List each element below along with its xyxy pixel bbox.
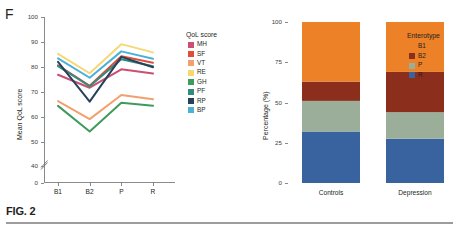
figure-container: F 0405060708090100 B1B2PR Mean QoL score… bbox=[0, 0, 459, 229]
legend-swatch-P bbox=[409, 63, 415, 69]
x-tick-label: Controls bbox=[301, 190, 361, 197]
figure-caption: FIG. 2 bbox=[6, 205, 35, 217]
legend-label-P: P bbox=[418, 62, 422, 68]
legend-swatch-SF bbox=[188, 51, 194, 57]
line-series-RE bbox=[58, 44, 153, 73]
legend-swatch-RP bbox=[188, 98, 194, 104]
legend-label-MH: MH bbox=[197, 41, 207, 47]
legend-item-B2[interactable]: B2 bbox=[409, 53, 426, 60]
legend-item-MH[interactable]: MH bbox=[188, 41, 207, 48]
caption-divider bbox=[6, 222, 453, 224]
legend-item-R[interactable]: R bbox=[409, 72, 423, 79]
legend-swatch-B1 bbox=[409, 44, 415, 50]
legend-item-PF[interactable]: PF bbox=[188, 88, 205, 95]
x-tick-label: B2 bbox=[75, 189, 105, 196]
bar-segment-controls-B2 bbox=[302, 82, 360, 101]
legend-item-RP[interactable]: RP bbox=[188, 97, 206, 104]
legend-swatch-RE bbox=[188, 70, 194, 76]
y-tick-label: 75 bbox=[258, 59, 282, 65]
y-tick bbox=[41, 183, 44, 184]
legend-swatch-B2 bbox=[409, 53, 415, 59]
x-tick-label: R bbox=[138, 189, 168, 196]
y-tick-label: 80 bbox=[12, 64, 38, 70]
panel-g-legend-title: Enterotype bbox=[407, 32, 440, 39]
panel-f-legend-title: QoL score bbox=[186, 31, 217, 38]
bar-segment-controls-B1 bbox=[302, 22, 360, 82]
x-tick bbox=[153, 183, 154, 186]
legend-label-RP: RP bbox=[197, 98, 206, 104]
legend-label-B2: B2 bbox=[418, 53, 426, 59]
panel-g-y-axis-title: Percentage (%) bbox=[262, 91, 269, 140]
legend-item-BP[interactable]: BP bbox=[188, 107, 206, 114]
legend-label-BP: BP bbox=[197, 107, 206, 113]
x-tick-label: B1 bbox=[43, 189, 73, 196]
y-tick-label: 0 bbox=[258, 180, 282, 186]
bar-segment-controls-P bbox=[302, 101, 360, 132]
y-tick-label: 100 bbox=[258, 19, 282, 25]
line-series-VT bbox=[58, 95, 153, 119]
bar-segment-depression-R bbox=[386, 139, 444, 183]
legend-swatch-VT bbox=[188, 60, 194, 66]
legend-swatch-R bbox=[409, 72, 415, 78]
legend-label-R: R bbox=[418, 72, 423, 78]
y-tick-label: 0 bbox=[12, 180, 38, 186]
legend-swatch-PF bbox=[188, 89, 194, 95]
legend-label-PF: PF bbox=[197, 88, 205, 94]
legend-item-SF[interactable]: SF bbox=[188, 50, 205, 57]
legend-swatch-MH bbox=[188, 42, 194, 48]
legend-label-SF: SF bbox=[197, 51, 205, 57]
y-tick-label: 90 bbox=[12, 39, 38, 45]
legend-label-VT: VT bbox=[197, 60, 205, 66]
legend-label-GH: GH bbox=[197, 79, 207, 85]
panel-g-bar-chart: G 0255075100 ControlsDepression Percenta… bbox=[250, 0, 459, 205]
legend-item-B1[interactable]: B1 bbox=[409, 43, 426, 50]
panel-f-series-lines bbox=[44, 17, 175, 183]
y-tick bbox=[285, 183, 288, 184]
y-tick-label: 100 bbox=[12, 14, 38, 20]
legend-item-P[interactable]: P bbox=[409, 62, 422, 69]
y-tick-label: 40 bbox=[12, 163, 38, 169]
panel-f-line-chart: F 0405060708090100 B1B2PR Mean QoL score… bbox=[0, 0, 250, 205]
legend-swatch-BP bbox=[188, 107, 194, 113]
bar-segment-depression-P bbox=[386, 112, 444, 139]
legend-label-RE: RE bbox=[197, 69, 206, 75]
legend-swatch-GH bbox=[188, 79, 194, 85]
y-tick-label: 25 bbox=[258, 140, 282, 146]
legend-item-VT[interactable]: VT bbox=[188, 60, 205, 67]
panel-f-y-axis-title: Mean QoL score bbox=[16, 89, 23, 141]
x-tick bbox=[58, 183, 59, 186]
legend-item-RE[interactable]: RE bbox=[188, 69, 206, 76]
x-tick-label: P bbox=[106, 189, 136, 196]
x-tick-label: Depression bbox=[385, 190, 445, 197]
x-tick bbox=[90, 183, 91, 186]
legend-label-B1: B1 bbox=[418, 43, 426, 49]
bar-segment-controls-R bbox=[302, 131, 360, 183]
legend-item-GH[interactable]: GH bbox=[188, 79, 207, 86]
x-tick bbox=[121, 183, 122, 186]
